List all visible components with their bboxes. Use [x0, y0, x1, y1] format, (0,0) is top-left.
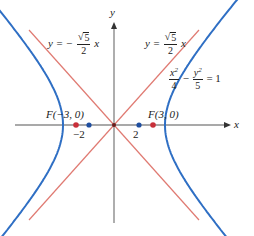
- asymptote-left-label: y = − √5 2 x: [48, 32, 99, 56]
- x-axis-label: x: [234, 119, 239, 130]
- asymptote-left-den: 2: [81, 45, 86, 56]
- y-axis-arrow-icon: [111, 22, 117, 29]
- asymptote-right-var: x: [181, 37, 186, 49]
- asymptote-right-prefix: y =: [145, 37, 160, 49]
- vertex-left-point: [86, 122, 91, 127]
- focus-left-label: F(−3, 0): [46, 109, 84, 120]
- y-axis-label: y: [110, 7, 115, 18]
- asymptote-right-den: 2: [168, 45, 173, 56]
- vertex-right-label: 2: [133, 129, 139, 140]
- origin-point: [112, 123, 116, 127]
- asymptote-left-prefix: y = −: [48, 37, 73, 49]
- equation-x-den: 4: [171, 80, 176, 91]
- x-axis-arrow-icon: [224, 122, 231, 128]
- focus-right-label: F(3, 0): [148, 109, 179, 120]
- vertex-right-point: [136, 122, 141, 127]
- equation-rhs: = 1: [206, 72, 220, 84]
- equation-term-y: y2 5: [193, 68, 203, 91]
- asymptote-right-fraction: √5 2: [164, 32, 178, 56]
- equation-x-exp: 2: [174, 66, 178, 74]
- focus-right-point: [150, 122, 156, 128]
- hyperbola-diagram: y x y = − √5 2 x y = √5 2 x x2 4 − y2 5 …: [0, 0, 254, 236]
- focus-left-point: [73, 122, 79, 128]
- equation-term-x: x2 4: [169, 68, 179, 91]
- asymptote-left-root: 5: [83, 32, 89, 43]
- diagram-canvas: [0, 0, 254, 236]
- equation-y-exp: 2: [198, 66, 202, 74]
- asymptote-left-var: x: [94, 37, 99, 49]
- hyperbola-equation: x2 4 − y2 5 = 1: [168, 68, 221, 91]
- equation-y-den: 5: [195, 80, 200, 91]
- vertex-left-label: −2: [73, 129, 85, 140]
- asymptote-right-root: 5: [170, 32, 176, 43]
- equation-minus: −: [183, 72, 189, 84]
- asymptote-right-label: y = √5 2 x: [145, 32, 186, 56]
- asymptote-left-fraction: √5 2: [77, 32, 91, 56]
